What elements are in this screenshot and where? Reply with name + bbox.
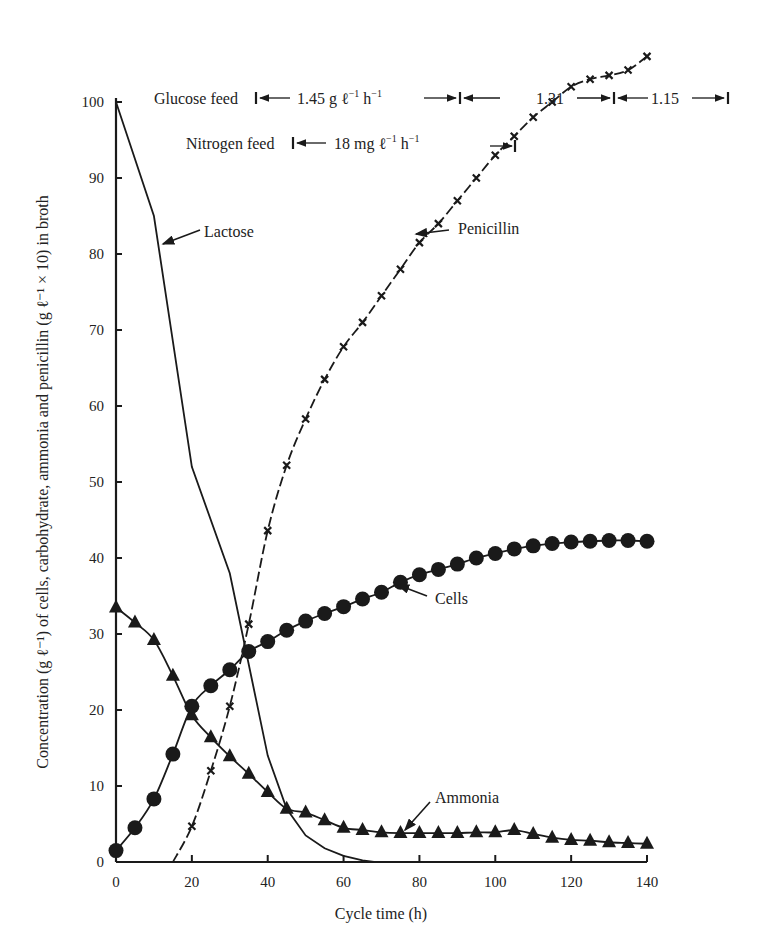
cells-marker	[241, 644, 256, 659]
penicillin-marker	[435, 220, 442, 227]
y-tick-label: 80	[89, 246, 104, 262]
cells-marker	[412, 567, 427, 582]
ammonia-marker	[412, 825, 426, 838]
ammonia-marker	[242, 766, 256, 779]
series-penicillin	[173, 53, 651, 862]
x-tick-label: 20	[184, 874, 199, 890]
cells-marker	[317, 606, 332, 621]
penicillin-marker	[473, 175, 480, 182]
x-tick-label: 100	[484, 874, 507, 890]
ammonia-marker	[109, 599, 123, 612]
penicillin-marker	[340, 343, 347, 350]
nitrogen-rate: 18 mg ℓ−1 h−1	[334, 133, 419, 153]
cells-marker	[146, 791, 161, 806]
cells-marker	[507, 541, 522, 556]
y-tick-label: 60	[89, 398, 104, 414]
y-tick-label: 20	[89, 702, 104, 718]
ammonia-marker	[507, 822, 521, 835]
arrow-ammonia	[405, 802, 430, 830]
label-penicillin: Penicillin	[458, 220, 519, 237]
y-tick-label: 0	[97, 854, 105, 870]
ammonia-marker	[375, 824, 389, 837]
x-tick-label: 0	[112, 874, 120, 890]
cells-marker	[602, 533, 617, 548]
penicillin-marker	[302, 415, 309, 422]
y-tick-label: 10	[89, 778, 104, 794]
ammonia-marker	[393, 825, 407, 838]
label-cells: Cells	[435, 590, 468, 607]
label-lactose: Lactose	[204, 223, 254, 240]
y-tick-label: 100	[82, 94, 105, 110]
cells-marker	[583, 534, 598, 549]
cells-marker	[336, 599, 351, 614]
glucose-rate-2: 1.31	[536, 90, 564, 107]
series-layer	[109, 53, 655, 862]
ammonia-marker	[564, 832, 578, 845]
x-tick-label: 140	[636, 874, 659, 890]
cells-marker	[450, 557, 465, 572]
x-tick-label: 60	[336, 874, 351, 890]
penicillin-marker	[492, 152, 499, 159]
penicillin-marker	[454, 197, 461, 204]
ammonia-marker	[166, 668, 180, 681]
cells-marker	[621, 533, 636, 548]
cells-marker	[279, 623, 294, 638]
label-ammonia: Ammonia	[435, 789, 499, 806]
ammonia-marker	[583, 833, 597, 846]
penicillin-marker	[625, 67, 632, 74]
ammonia-marker	[602, 834, 616, 847]
penicillin-marker	[321, 376, 328, 383]
ammonia-marker	[280, 801, 294, 814]
penicillin-marker	[568, 83, 575, 90]
series-lactose	[116, 102, 374, 862]
nitrogen-feed-annotation: Nitrogen feed 18 mg ℓ−1 h−1	[186, 133, 515, 153]
y-tick-label: 90	[89, 170, 104, 186]
glucose-rate-1: 1.45 g ℓ−1 h−1	[297, 88, 382, 108]
penicillin-marker	[416, 239, 423, 246]
cells-marker	[298, 614, 313, 629]
y-tick-label: 40	[89, 550, 104, 566]
penicillin-marker	[188, 823, 195, 830]
penicillin-marker	[397, 266, 404, 273]
cells-marker	[203, 678, 218, 693]
cells-marker	[640, 534, 655, 549]
arrow-lactose	[163, 230, 200, 244]
chart-canvas: 0102030405060708090100020406080100120140…	[0, 0, 768, 950]
ammonia-marker	[223, 748, 237, 761]
glucose-feed-label: Glucose feed	[154, 90, 238, 107]
cells-marker	[222, 662, 237, 677]
ammonia-marker	[621, 835, 635, 848]
penicillin-marker	[530, 114, 537, 121]
glucose-rate-3: 1.15	[651, 90, 679, 107]
cells-marker	[469, 551, 484, 566]
ammonia-marker	[450, 825, 464, 838]
cells-marker	[374, 585, 389, 600]
cells-marker	[355, 592, 370, 607]
ammonia-marker	[356, 822, 370, 835]
y-tick-label: 50	[89, 474, 104, 490]
series-line	[116, 102, 374, 862]
cells-marker	[488, 546, 503, 561]
ammonia-marker	[431, 825, 445, 838]
x-tick-label: 120	[560, 874, 583, 890]
ammonia-marker	[128, 615, 142, 628]
series-cells	[109, 533, 655, 858]
x-axis-title: Cycle time (h)	[335, 905, 427, 923]
cells-marker	[165, 747, 180, 762]
cells-marker	[109, 843, 124, 858]
x-tick-label: 80	[412, 874, 427, 890]
series-line	[173, 56, 647, 862]
y-tick-label: 70	[89, 322, 104, 338]
ammonia-marker	[640, 836, 654, 849]
cells-marker	[431, 562, 446, 577]
cells-marker	[526, 538, 541, 553]
series-ammonia	[109, 599, 654, 848]
x-tick-label: 40	[260, 874, 275, 890]
y-axis-title: Concentration (g ℓ⁻¹) of cells, carbohyd…	[34, 195, 52, 768]
cells-marker	[127, 820, 142, 835]
nitrogen-feed-label: Nitrogen feed	[186, 135, 274, 153]
glucose-feed-annotation: Glucose feed 1.45 g ℓ−1 h−1 1.31 1.15	[154, 88, 728, 108]
arrow-cells	[398, 585, 427, 596]
cells-marker	[564, 535, 579, 550]
cells-marker	[260, 634, 275, 649]
